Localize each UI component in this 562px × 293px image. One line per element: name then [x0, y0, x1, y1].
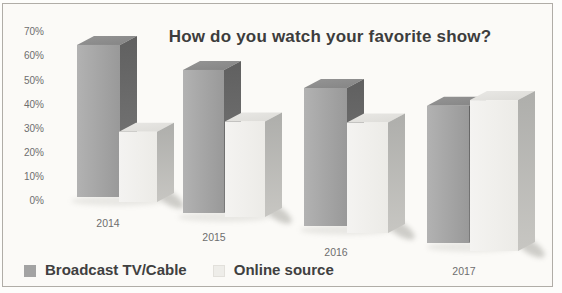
bars	[77, 36, 535, 251]
bar-online-2014	[119, 123, 174, 202]
bar-online-2015-side-face	[265, 113, 282, 217]
bar-online-2017-side-face	[518, 91, 535, 251]
category-label-2016: 2016	[324, 246, 348, 258]
category-label-2015: 2015	[202, 231, 226, 243]
bar-broadcast-2017-front-face	[427, 106, 469, 243]
y-tick-label-40: 40%	[24, 99, 44, 110]
bar-online-2017	[470, 91, 535, 251]
y-tick-label-20: 20%	[24, 147, 44, 158]
legend-label-online: Online source	[234, 261, 334, 278]
bar-online-2017-front-face	[470, 100, 518, 251]
category-label-2017: 2017	[452, 265, 476, 277]
y-tick-label-0: 0%	[30, 195, 45, 206]
bar-broadcast-2014-front-face	[77, 45, 120, 197]
bar-online-2015	[225, 113, 282, 217]
y-tick-label-60: 60%	[24, 50, 44, 61]
bar-broadcast-2015-front-face	[183, 70, 224, 213]
bar-online-2015-front-face	[225, 122, 265, 217]
legend-swatch-broadcast-icon	[24, 265, 36, 277]
chart-title: How do you watch your favorite show?	[145, 27, 515, 47]
y-axis: 0%10%20%30%40%50%60%70%	[24, 26, 44, 206]
legend-label-broadcast: Broadcast TV/Cable	[45, 261, 187, 278]
legend-swatch-online-icon	[213, 265, 225, 277]
bar-online-2016-side-face	[388, 114, 405, 233]
y-tick-label-30: 30%	[24, 123, 44, 134]
y-tick-label-50: 50%	[24, 75, 44, 86]
bar-online-2014-side-face	[157, 123, 174, 202]
bar-online-2016-front-face	[347, 123, 388, 233]
bar-online-2014-front-face	[119, 132, 157, 202]
legend-item-broadcast: Broadcast TV/Cable	[24, 261, 187, 278]
bar-online-2016	[347, 114, 405, 233]
chart-figure: 0%10%20%30%40%50%60%70% 2014201520162017…	[0, 0, 562, 293]
y-tick-label-70: 70%	[24, 26, 44, 37]
legend-item-online: Online source	[213, 261, 334, 278]
y-tick-label-10: 10%	[24, 171, 44, 182]
legend: Broadcast TV/Cable Online source	[24, 261, 334, 278]
bar-broadcast-2016-front-face	[304, 88, 347, 226]
category-label-2014: 2014	[96, 217, 120, 229]
